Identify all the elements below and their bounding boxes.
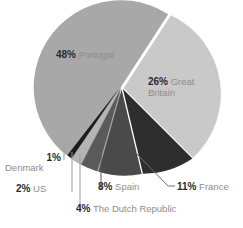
slice-label-portugal: 48% Portugal	[56, 49, 114, 61]
slice-name-france: France	[199, 181, 229, 192]
slice-percent-portugal: 48%	[56, 49, 76, 60]
slice-label-dutch-republic: 4% The Dutch Republic	[76, 203, 176, 215]
slice-name-us: US	[33, 183, 46, 194]
slice-name-denmark: Denmark	[5, 163, 62, 174]
slice-label-great-britain: 26% Great Britain	[148, 76, 194, 98]
slice-percent-great-britain: 26%	[148, 76, 168, 87]
slice-label-spain: 8% Spain	[98, 181, 139, 193]
pie-chart: 48% Portugal 26% Great Britain 1% Denmar…	[0, 0, 243, 228]
slice-percent-spain: 8%	[98, 181, 112, 192]
slice-percent-us: 2%	[16, 183, 30, 194]
slice-label-us: 2% US	[16, 183, 46, 195]
slice-name-great-britain-line2: Britain	[148, 88, 194, 99]
slice-percent-france: 11%	[177, 181, 196, 192]
slice-name-dutch-republic: The Dutch Republic	[93, 203, 176, 214]
slice-label-denmark: 1% Denmark	[5, 152, 62, 174]
slice-label-france: 11% France	[177, 181, 229, 193]
slice-percent-dutch-republic: 4%	[76, 203, 90, 214]
slice-name-spain: Spain	[115, 181, 139, 192]
slice-name-great-britain: Great	[171, 76, 195, 87]
slice-name-portugal: Portugal	[79, 49, 114, 60]
